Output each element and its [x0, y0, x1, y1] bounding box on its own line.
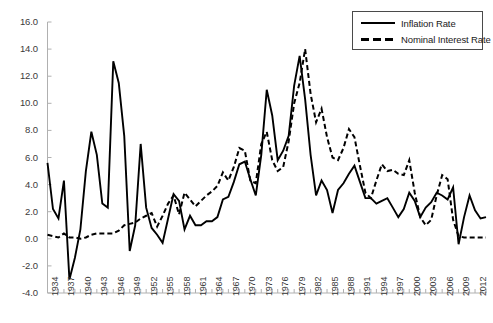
y-axis-tick-label: 0.0 — [4, 234, 38, 244]
legend-label-inflation-rate: Inflation Rate — [401, 18, 456, 29]
x-axis-tick-label: 1952 — [150, 277, 159, 296]
y-axis-tick-label: 12.0 — [4, 71, 38, 81]
x-axis-tick-label: 1955 — [166, 277, 175, 296]
x-axis-tick-label: 1985 — [331, 277, 340, 296]
x-axis-tick-label: 2012 — [479, 277, 488, 296]
x-axis-tick-label: 1958 — [183, 277, 192, 296]
x-axis-tick-label: 1967 — [232, 277, 241, 296]
legend-entry-inflation-rate: Inflation Rate — [361, 16, 456, 30]
x-axis-tick-label: 1997 — [396, 277, 405, 296]
legend-label-nominal-interest-rate: Nominal Interest Rate — [401, 34, 491, 45]
y-axis-tick-label: 16.0 — [4, 17, 38, 27]
legend-solid-line-icon — [361, 18, 395, 28]
x-axis-tick-label: 1973 — [265, 277, 274, 296]
x-axis-tick-label: 1940 — [84, 277, 93, 296]
y-axis-tick-label: 4.0 — [4, 180, 38, 190]
x-axis-tick-label: 2000 — [413, 277, 422, 296]
y-axis-tick-label: 8.0 — [4, 125, 38, 135]
y-axis-tick-label: 14.0 — [4, 44, 38, 54]
x-axis-tick-label: 1949 — [133, 277, 142, 296]
x-axis-tick-label: 2003 — [429, 277, 438, 296]
x-axis-tick-label: 1961 — [199, 277, 208, 296]
chart-legend: Inflation Rate Nominal Interest Rate — [352, 11, 483, 50]
x-axis-tick-label: 1976 — [281, 277, 290, 296]
series-group — [48, 49, 487, 279]
legend-dashed-line-icon — [361, 34, 395, 44]
x-axis-tick-label: 1970 — [248, 277, 257, 296]
x-axis-tick-label: 1991 — [363, 277, 372, 296]
x-axis-tick-label: 1934 — [51, 277, 60, 296]
x-axis-tick-label: 1979 — [298, 277, 307, 296]
legend-entry-nominal-interest-rate: Nominal Interest Rate — [361, 32, 491, 46]
x-axis-tick-label: 1946 — [117, 277, 126, 296]
series-line-inflation-rate — [48, 56, 487, 280]
x-axis-tick-label: 1943 — [100, 277, 109, 296]
x-axis-tick-label: 2009 — [462, 277, 471, 296]
x-axis-tick-label: 1937 — [67, 277, 76, 296]
y-axis-tick-label: 6.0 — [4, 153, 38, 163]
x-axis-tick-label: 2006 — [446, 277, 455, 296]
x-axis-tick-label: 1982 — [314, 277, 323, 296]
x-axis-tick-label: 1994 — [380, 277, 389, 296]
y-axis-tick-label: 2.0 — [4, 207, 38, 217]
y-axis-tick-label: 10.0 — [4, 98, 38, 108]
y-axis-tick-label: -4.0 — [4, 288, 38, 298]
y-axis-tick-label: -2.0 — [4, 261, 38, 271]
x-axis-tick-label: 1988 — [347, 277, 356, 296]
chart-container: 16.014.012.010.08.06.04.02.00.0-2.0-4.0 … — [0, 0, 493, 323]
x-axis-tick-label: 1964 — [215, 277, 224, 296]
